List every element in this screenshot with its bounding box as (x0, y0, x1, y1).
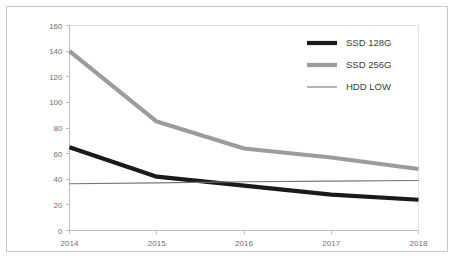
y-tick-label: 160 (49, 22, 63, 31)
y-tick-label: 60 (54, 150, 63, 159)
y-axis-ticks: 020406080100120140160 (49, 22, 69, 236)
y-tick-label: 140 (49, 47, 63, 56)
chart-legend: SSD 128GSSD 256GHDD LOW (307, 37, 391, 92)
chart-svg: 020406080100120140160 201420152016201720… (7, 7, 449, 253)
x-tick-label: 2014 (61, 239, 79, 248)
legend-label: SSD 128G (346, 37, 391, 48)
y-tick-label: 40 (54, 175, 63, 184)
x-tick-label: 2015 (148, 239, 166, 248)
x-axis-ticks: 20142015201620172018 (61, 231, 428, 248)
x-tick-label: 2017 (322, 239, 340, 248)
legend-label: HDD LOW (346, 81, 391, 92)
legend-item-ssd-256g[interactable]: SSD 256G (307, 59, 391, 70)
legend-label: SSD 256G (346, 59, 391, 70)
y-tick-label: 20 (54, 201, 63, 210)
y-tick-label: 80 (54, 124, 63, 133)
x-tick-label: 2018 (410, 239, 428, 248)
series-line-ssd-128g (70, 147, 419, 200)
x-tick-label: 2016 (235, 239, 253, 248)
chart-frame: 020406080100120140160 201420152016201720… (6, 6, 448, 252)
series-line-hdd-low (70, 181, 419, 184)
legend-item-hdd-low[interactable]: HDD LOW (307, 81, 391, 92)
series-group (70, 51, 419, 200)
y-tick-label: 0 (58, 227, 63, 236)
line-chart: 020406080100120140160 201420152016201720… (7, 7, 449, 253)
legend-item-ssd-128g[interactable]: SSD 128G (307, 37, 391, 48)
y-tick-label: 100 (49, 98, 63, 107)
y-tick-label: 120 (49, 73, 63, 82)
